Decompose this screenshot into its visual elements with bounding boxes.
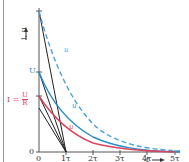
i-tick-label: I = U R: [7, 92, 28, 107]
u-tick-label: U: [29, 67, 36, 75]
series-i: [39, 96, 175, 152]
curve-label-u: u: [72, 102, 77, 110]
x-axis-label: t: [146, 156, 149, 162]
x-tick-1: 1τ: [61, 155, 71, 162]
plot-area: [0, 0, 189, 162]
series-uL: [39, 11, 180, 151]
chart: i, u U I = U R 0 0 1τ 2τ 3τ 4τ 5τ t u u …: [0, 0, 189, 162]
x-tick-5: 5τ: [170, 155, 180, 162]
x-tick-0: 0: [36, 155, 41, 162]
x-tick-3: 3τ: [115, 155, 125, 162]
y-axis-label: i, u: [20, 27, 28, 40]
curve-label-uL: u: [64, 46, 69, 54]
zero-y-label: 0: [29, 148, 34, 156]
x-tick-2: 2τ: [88, 155, 98, 162]
curve-label-i: u: [69, 123, 74, 131]
